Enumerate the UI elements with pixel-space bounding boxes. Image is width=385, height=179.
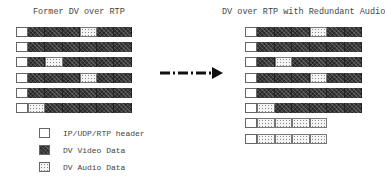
legend-item-video: DV Video Data — [39, 145, 125, 155]
dv-video-block — [257, 27, 275, 37]
dv-video-block — [310, 88, 328, 98]
dv-video-block — [292, 103, 310, 113]
right-packet-row — [245, 42, 362, 51]
audio-swatch-icon — [39, 162, 50, 172]
dv-video-block — [114, 27, 131, 37]
dv-audio-block — [275, 118, 293, 128]
dv-audio-block — [310, 27, 328, 37]
dv-video-block — [327, 42, 345, 52]
dv-video-block — [275, 42, 293, 52]
dv-video-block — [292, 57, 310, 67]
right-packet-row — [245, 88, 362, 97]
dv-video-block — [292, 42, 310, 52]
rtp-header-block — [245, 134, 257, 144]
dv-video-block — [97, 88, 114, 98]
rtp-header-block — [16, 27, 28, 37]
dv-audio-block — [275, 134, 293, 144]
dv-video-block — [310, 42, 328, 52]
dv-video-block — [275, 27, 293, 37]
dv-video-block — [28, 88, 45, 98]
dv-video-block — [257, 88, 275, 98]
dv-video-block — [327, 57, 345, 67]
legend-label: DV Audio Data — [63, 163, 125, 172]
rtp-header-block — [245, 27, 257, 37]
dv-video-block — [97, 57, 114, 67]
dv-video-block — [63, 27, 80, 37]
dv-video-block — [114, 88, 131, 98]
dv-video-block — [97, 103, 114, 113]
dv-video-block — [327, 103, 345, 113]
dv-video-block — [275, 73, 293, 83]
dv-video-block — [275, 103, 293, 113]
dv-video-block — [345, 57, 363, 67]
dv-video-block — [63, 42, 80, 52]
dv-video-block — [63, 88, 80, 98]
dv-video-block — [45, 73, 62, 83]
dv-video-block — [114, 42, 131, 52]
right-packet-row — [245, 118, 327, 127]
header-swatch-icon — [39, 128, 50, 138]
dv-video-block — [257, 73, 275, 83]
rtp-header-block — [245, 103, 257, 113]
left-packet-row — [16, 73, 132, 82]
dv-audio-block — [292, 118, 310, 128]
dv-video-block — [80, 42, 97, 52]
dv-video-block — [45, 88, 62, 98]
dv-video-block — [327, 88, 345, 98]
dv-audio-block — [257, 134, 275, 144]
dv-audio-block — [310, 73, 328, 83]
dv-video-block — [28, 42, 45, 52]
dv-video-block — [345, 88, 363, 98]
video-swatch-icon — [39, 145, 50, 155]
dv-audio-block — [310, 134, 328, 144]
legend-label: IP/UDP/RTP header — [63, 129, 145, 138]
dash-dot-arrow-icon — [158, 66, 224, 80]
dv-video-block — [63, 103, 80, 113]
dv-video-block — [97, 27, 114, 37]
dv-video-block — [275, 88, 293, 98]
dv-video-block — [45, 42, 62, 52]
dv-video-block — [114, 57, 131, 67]
right-packet-row — [245, 73, 362, 82]
legend-item-header: IP/UDP/RTP header — [39, 128, 145, 138]
dv-video-block — [345, 103, 363, 113]
dv-video-block — [310, 57, 328, 67]
dv-video-block — [327, 73, 345, 83]
dv-video-block — [80, 57, 97, 67]
dv-video-block — [292, 73, 310, 83]
legend-label: DV Video Data — [63, 146, 125, 155]
dv-video-block — [114, 103, 131, 113]
dv-audio-block — [275, 57, 293, 67]
rtp-header-block — [16, 103, 28, 113]
legend-item-audio: DV Audio Data — [39, 162, 125, 172]
rtp-header-block — [245, 118, 257, 128]
dv-video-block — [292, 88, 310, 98]
dv-audio-block — [80, 27, 97, 37]
left-packet-row — [16, 42, 132, 51]
left-packet-row — [16, 88, 132, 97]
rtp-header-block — [245, 57, 257, 67]
dv-audio-block — [80, 73, 97, 83]
left-packet-row — [16, 57, 132, 66]
dv-video-block — [80, 88, 97, 98]
dv-video-block — [345, 73, 363, 83]
dv-video-block — [28, 73, 45, 83]
rtp-header-block — [16, 42, 28, 52]
right-packet-row — [245, 103, 362, 112]
right-packet-row — [245, 27, 362, 36]
dv-video-block — [292, 27, 310, 37]
dv-video-block — [327, 27, 345, 37]
rtp-header-block — [245, 73, 257, 83]
dv-audio-block — [28, 103, 45, 113]
left-panel-title: Former DV over RTP — [33, 7, 125, 17]
rtp-header-block — [16, 73, 28, 83]
rtp-header-block — [245, 42, 257, 52]
dv-video-block — [310, 103, 328, 113]
dv-audio-block — [310, 118, 328, 128]
dv-audio-block — [257, 118, 275, 128]
dv-video-block — [345, 27, 363, 37]
dv-video-block — [257, 57, 275, 67]
dv-video-block — [28, 57, 45, 67]
dv-video-block — [97, 73, 114, 83]
dv-video-block — [257, 42, 275, 52]
